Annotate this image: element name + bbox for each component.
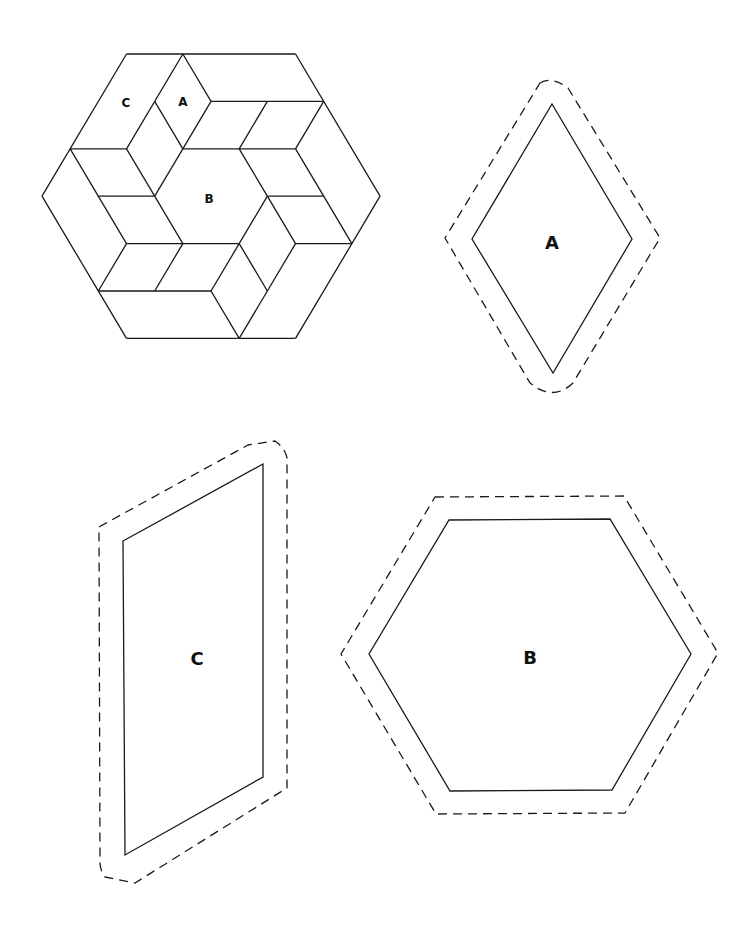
- quilt-seam-line: [239, 244, 267, 291]
- quilt-seam-line: [296, 196, 381, 338]
- quilt-seam-line: [155, 101, 183, 148]
- quilt-seam-line: [267, 196, 295, 243]
- quilt-seam-line: [155, 244, 183, 291]
- quilt-seam-line: [155, 196, 183, 243]
- template-a: A: [445, 80, 660, 392]
- quilt-seam-line: [324, 196, 352, 243]
- quilt-seam-line: [239, 101, 267, 148]
- quilt-seam-line: [239, 149, 267, 196]
- quilt-piece-label-c: C: [122, 96, 131, 110]
- quilt-pattern-sheet: CAB A C B: [0, 0, 754, 930]
- quilt-seam-line: [42, 196, 127, 338]
- quilt-seam-line: [183, 101, 211, 148]
- template-a-label: A: [545, 232, 559, 253]
- quilt-block-diagram: CAB: [42, 54, 380, 338]
- quilt-piece-label-a: A: [178, 95, 188, 109]
- quilt-seam-line: [155, 149, 183, 196]
- template-c: C: [99, 441, 287, 883]
- quilt-seam-line: [296, 101, 324, 148]
- quilt-seam-line: [98, 244, 126, 291]
- quilt-seam-line: [296, 149, 324, 196]
- quilt-seam-line: [211, 291, 239, 338]
- quilt-seam-line: [127, 149, 155, 196]
- quilt-seam-line: [211, 244, 239, 291]
- template-c-label: C: [190, 648, 203, 669]
- template-b: B: [341, 496, 718, 814]
- quilt-piece-label-b: B: [204, 192, 213, 206]
- quilt-seam-line: [239, 196, 267, 243]
- quilt-seam-line: [267, 244, 295, 291]
- quilt-seam-line: [42, 54, 127, 196]
- quilt-seam-line: [239, 291, 267, 338]
- template-b-label: B: [523, 647, 537, 668]
- quilt-seam-line: [296, 54, 381, 196]
